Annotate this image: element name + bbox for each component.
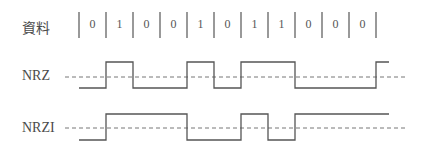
bit-value: 1 <box>187 17 214 32</box>
bit-value: 0 <box>322 17 349 32</box>
bit-value: 0 <box>133 17 160 32</box>
bit-value: 0 <box>79 17 106 32</box>
bit-value: 1 <box>268 17 295 32</box>
bit-value: 0 <box>160 17 187 32</box>
bit-value: 1 <box>241 17 268 32</box>
nrz-waveform <box>79 62 389 88</box>
bit-value: 0 <box>295 17 322 32</box>
nrzi-waveform <box>79 114 389 140</box>
bit-value: 1 <box>106 17 133 32</box>
bit-value: 0 <box>214 17 241 32</box>
bit-value: 0 <box>349 17 376 32</box>
